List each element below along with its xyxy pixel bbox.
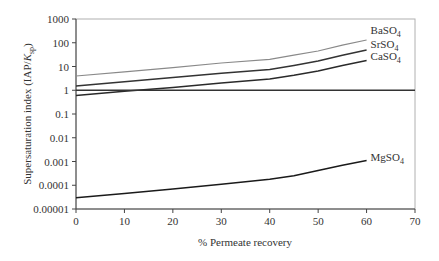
x-tick-label: 10 [119, 215, 131, 227]
legend-label-mgso4: MgSO4 [371, 151, 404, 166]
series-line-baso4 [76, 40, 367, 76]
x-tick-label: 60 [361, 215, 373, 227]
y-tick-label: 0.001 [44, 156, 69, 168]
y-axis-ticks: 10001001010.10.010.0010.00010.00001 [33, 13, 76, 215]
y-tick-label: 0.00001 [33, 203, 69, 215]
y-tick-label: 100 [53, 37, 70, 49]
x-tick-label: 30 [216, 215, 228, 227]
x-tick-label: 20 [167, 215, 179, 227]
legend: BaSO4SrSO4CaSO4MgSO4 [371, 24, 404, 165]
y-tick-label: 0.1 [55, 108, 69, 120]
x-tick-label: 40 [264, 215, 276, 227]
plot-frame [76, 19, 415, 209]
y-axis-title: Supersaturation index (IAP/Ksp) [21, 43, 36, 185]
y-tick-label: 1000 [47, 13, 70, 25]
x-axis-title: % Permeate recovery [198, 236, 293, 248]
series-line-mgso4 [76, 161, 367, 198]
legend-label-caso4: CaSO4 [371, 50, 401, 65]
x-tick-label: 50 [313, 215, 325, 227]
chart-canvas: 10001001010.10.010.0010.00010.00001 0102… [0, 0, 439, 261]
y-tick-label: 0.0001 [39, 179, 69, 191]
x-axis-ticks: 010203040506070 [73, 209, 421, 227]
series-lines [76, 40, 415, 198]
series-line-srso4 [76, 50, 367, 86]
x-tick-label: 70 [410, 215, 422, 227]
legend-label-baso4: BaSO4 [371, 24, 401, 39]
y-tick-label: 1 [64, 84, 70, 96]
x-tick-label: 0 [73, 215, 79, 227]
y-tick-label: 10 [58, 61, 70, 73]
y-tick-label: 0.01 [50, 132, 69, 144]
